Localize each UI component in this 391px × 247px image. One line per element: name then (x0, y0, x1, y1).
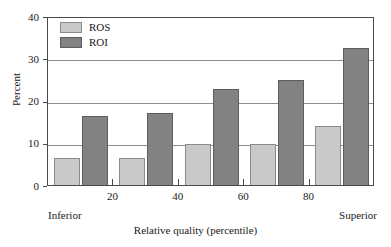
x-tick-mark-80 (309, 179, 310, 186)
legend-swatch-ros-icon (60, 22, 82, 33)
y-tick-mark-0 (43, 186, 47, 187)
x-tick-mark-20 (112, 179, 113, 186)
x-tick-label-40: 40 (158, 190, 198, 202)
bar-roi-70 (278, 80, 304, 185)
legend-label-roi: ROI (89, 37, 108, 48)
y-tick-label-20: 20 (17, 96, 39, 107)
bar-roi-30 (147, 113, 173, 185)
bar-roi-10 (82, 116, 108, 185)
bar-ros-30 (119, 158, 145, 185)
y-tick-label-10: 10 (17, 138, 39, 149)
x-tick-label-60: 60 (223, 190, 263, 202)
y-tick-label-0: 0 (17, 181, 39, 192)
x-tick-mark-60 (243, 179, 244, 186)
bar-ros-70 (250, 144, 276, 185)
y-tick-label-30: 30 (17, 54, 39, 65)
x-tick-label-20: 20 (92, 190, 132, 202)
y-axis-title: Percent (11, 55, 22, 125)
bar-chart: Percent 010203040 20406080 Inferior Supe… (0, 0, 391, 247)
bar-ros-10 (54, 158, 80, 185)
legend: ROS ROI (60, 21, 110, 48)
y-tick-label-40: 40 (17, 12, 39, 23)
legend-item-roi: ROI (60, 36, 110, 48)
x-axis-high-end-label: Superior (339, 209, 377, 221)
bar-ros-50 (185, 144, 211, 185)
legend-item-ros: ROS (60, 21, 110, 33)
bar-roi-90 (343, 48, 369, 185)
x-tick-mark-40 (178, 179, 179, 186)
bar-ros-90 (315, 126, 341, 185)
legend-swatch-roi-icon (60, 37, 82, 48)
x-tick-label-80: 80 (289, 190, 329, 202)
bar-roi-50 (213, 89, 239, 185)
x-axis-title: Relative quality (percentile) (0, 224, 391, 236)
x-axis-low-end-label: Inferior (48, 209, 82, 221)
legend-label-ros: ROS (89, 22, 110, 33)
